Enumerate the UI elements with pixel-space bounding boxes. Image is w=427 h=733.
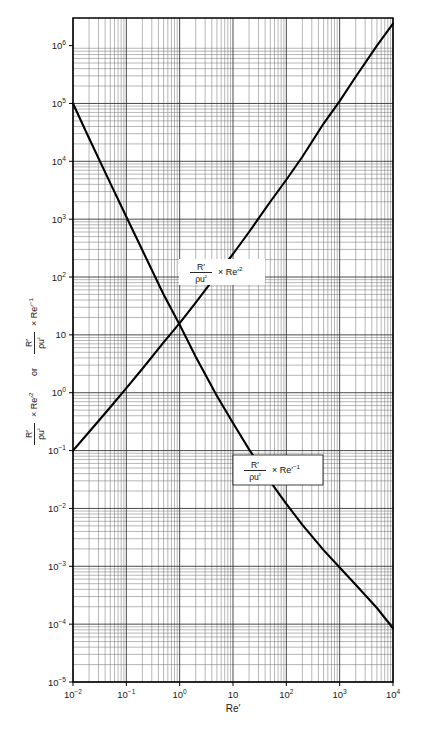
ann-lower-numerator: R′	[251, 460, 259, 470]
annotation-ann-upper: R′ρu²× Re′2	[179, 259, 265, 285]
log-log-chart: 10−210−110010102103104 10610510410310210…	[0, 0, 427, 733]
y-title-frac1-numerator: R′	[24, 430, 34, 438]
y-tick-label: 10	[55, 329, 66, 340]
annotation-ann-lower: R′ρu²× Re′−1	[233, 455, 323, 485]
ann-upper-numerator: R′	[197, 262, 205, 272]
y-title-conjunction: or	[29, 368, 39, 376]
chart-figure: 10−210−110010102103104 10610510410310210…	[0, 0, 427, 733]
x-axis-title: Re′	[226, 703, 241, 714]
y-title-frac2-numerator: R′	[24, 339, 34, 347]
x-tick-label: 10	[228, 689, 239, 700]
